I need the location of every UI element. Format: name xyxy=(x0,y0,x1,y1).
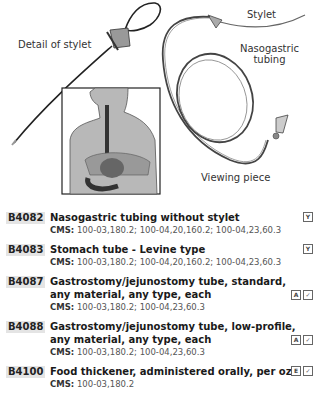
tubing-drawing xyxy=(0,0,318,200)
cms-reference: CMS: 100-03,180.2; 100-04,20,160.2; 100-… xyxy=(50,224,314,236)
badge-y-icon: Y xyxy=(303,244,313,254)
cms-value: 100-03,180.2 xyxy=(77,379,134,389)
cms-reference: CMS: 100-03,180.2; 100-04,23,60.3 xyxy=(50,301,314,313)
badge-y-icon: Y xyxy=(303,212,313,222)
code-description: Food thickener, administered orally, per… xyxy=(50,365,314,378)
cms-value: 100-03,180.2; 100-04,20,160.2; 100-04,23… xyxy=(77,257,281,267)
code-entry-b4087: B4087 A ✓ Gastrostomy/jejunostomy tube, … xyxy=(0,275,318,313)
label-stylet: Stylet xyxy=(247,9,276,20)
cms-value: 100-03,180.2; 100-04,23,60.3 xyxy=(77,302,205,312)
status-badges: A ✓ xyxy=(291,335,313,345)
cms-reference: CMS: 100-03,180.2; 100-04,23,60.3 xyxy=(50,346,314,358)
status-badges: Y xyxy=(303,212,313,222)
code-description: Nasogastric tubing without stylet xyxy=(50,211,314,224)
cms-reference: CMS: 100-03,180.2 xyxy=(50,378,314,390)
status-badges: E ✓ xyxy=(291,366,313,376)
code-label: B4087 xyxy=(6,276,45,288)
badge-a-icon: A xyxy=(291,335,301,345)
code-entry-b4082: B4082 Y Nasogastric tubing without style… xyxy=(0,211,318,236)
cms-label: CMS: xyxy=(50,347,74,357)
code-entry-b4088: B4088 A ✓ Gastrostomy/jejunostomy tube, … xyxy=(0,320,318,358)
cms-value: 100-03,180.2; 100-04,20,160.2; 100-04,23… xyxy=(77,225,281,235)
cms-value: 100-03,180.2; 100-04,23,60.3 xyxy=(77,347,205,357)
status-badges: A ✓ xyxy=(291,290,313,300)
badge-a-icon: A xyxy=(291,290,301,300)
code-label: B4088 xyxy=(6,321,45,333)
label-viewing-piece: Viewing piece xyxy=(201,172,270,183)
cms-label: CMS: xyxy=(50,379,74,389)
status-badges: Y xyxy=(303,244,313,254)
code-description: Gastrostomy/jejunostomy tube, standard, … xyxy=(50,275,314,301)
label-nasogastric-line2: tubing xyxy=(240,54,299,65)
code-label: B4083 xyxy=(6,244,45,256)
hcpcs-code-list: B4082 Y Nasogastric tubing without style… xyxy=(0,208,318,390)
cms-reference: CMS: 100-03,180.2; 100-04,20,160.2; 100-… xyxy=(50,256,314,268)
cms-label: CMS: xyxy=(50,257,74,267)
code-description: Gastrostomy/jejunostomy tube, low-profil… xyxy=(50,320,314,346)
code-entry-b4083: B4083 Y Stomach tube - Levine type CMS: … xyxy=(0,243,318,268)
badge-e-icon: E xyxy=(291,366,301,376)
cms-label: CMS: xyxy=(50,302,74,312)
label-nasogastric-tubing: Nasogastric tubing xyxy=(240,43,299,65)
checkmark-icon: ✓ xyxy=(303,366,313,376)
code-label: B4100 xyxy=(6,366,45,378)
label-detail-of-stylet: Detail of stylet xyxy=(18,39,91,50)
code-label: B4082 xyxy=(6,212,45,224)
code-entry-b4100: B4100 E ✓ Food thickener, administered o… xyxy=(0,365,318,390)
code-description: Stomach tube - Levine type xyxy=(50,243,314,256)
cms-label: CMS: xyxy=(50,225,74,235)
nasogastric-tube-illustration: Detail of stylet Stylet Nasogastric tubi… xyxy=(0,0,318,200)
label-nasogastric-line1: Nasogastric xyxy=(240,43,299,54)
checkmark-icon: ✓ xyxy=(303,290,313,300)
checkmark-icon: ✓ xyxy=(303,335,313,345)
